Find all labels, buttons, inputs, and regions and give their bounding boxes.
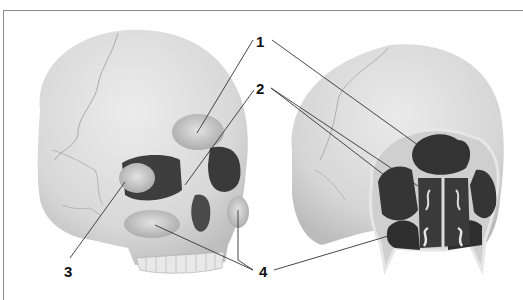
label-1-frontal-sinus: 1 — [256, 34, 264, 49]
nasal-aperture — [191, 194, 210, 231]
maxillary-sinus-left — [124, 210, 180, 238]
right-skull — [292, 44, 504, 270]
label-2-ethmoid-sinus: 2 — [256, 81, 264, 96]
ethmoid-lateral — [119, 163, 155, 193]
left-skull — [38, 30, 249, 274]
label-4-maxillary-sinus: 4 — [259, 264, 267, 279]
label-3-sphenoid-sinus: 3 — [64, 264, 72, 279]
